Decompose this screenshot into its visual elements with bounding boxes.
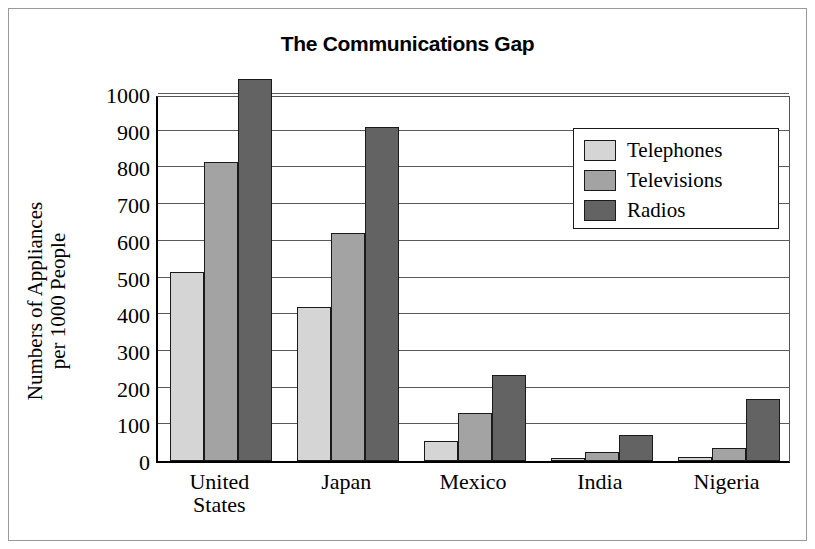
x-axis-tick-label-line: India: [536, 470, 663, 493]
legend-swatch: [584, 170, 616, 191]
y-axis-tick-label: 500: [80, 269, 150, 291]
bar: [678, 457, 712, 461]
legend-label: Televisions: [627, 170, 722, 191]
x-axis-tick-label: India: [536, 470, 663, 493]
x-axis-tick-label-line: States: [156, 493, 283, 516]
chart-legend: TelephonesTelevisionsRadios: [573, 128, 779, 229]
bar: [492, 375, 526, 461]
x-axis-tick-label-line: Mexico: [410, 470, 537, 493]
legend-label: Radios: [627, 200, 685, 221]
y-axis-title-line-1: Numbers of Appliances: [24, 202, 47, 400]
x-axis-tick-label: Nigeria: [663, 470, 790, 493]
legend-item: Radios: [584, 195, 778, 225]
x-axis-tick-label-line: Japan: [283, 470, 410, 493]
y-axis-title-line-2: per 1000 People: [47, 233, 70, 369]
legend-item: Telephones: [584, 135, 778, 165]
legend-swatch: [584, 140, 616, 161]
bar: [585, 452, 619, 461]
x-axis-tick-label: UnitedStates: [156, 470, 283, 516]
chart-figure: The Communications Gap Numbers of Applia…: [0, 0, 815, 549]
bar: [170, 272, 204, 461]
y-axis-tick-labels: 01002003004005006007008009001000: [74, 96, 150, 463]
bar: [551, 458, 585, 461]
y-axis-title: Numbers of Appliances per 1000 People: [21, 151, 73, 451]
y-axis-tick-label: 100: [80, 415, 150, 437]
legend-item: Televisions: [584, 165, 778, 195]
bar: [331, 233, 365, 461]
legend-swatch: [584, 200, 616, 221]
y-axis-tick-label: 300: [80, 342, 150, 364]
bar: [424, 441, 458, 461]
y-axis-tick-label: 400: [80, 305, 150, 327]
x-axis-tick-label: Mexico: [410, 470, 537, 493]
x-axis-tick-label-line: United: [156, 470, 283, 493]
y-axis-tick-label: 700: [80, 195, 150, 217]
bar: [619, 435, 653, 461]
y-axis-tick-label: 0: [80, 452, 150, 474]
bar: [458, 413, 492, 461]
legend-label: Telephones: [627, 140, 722, 161]
chart-title: The Communications Gap: [0, 32, 815, 56]
bar: [712, 448, 746, 461]
bar: [365, 127, 399, 461]
bar: [204, 162, 238, 461]
y-axis-tick-label: 800: [80, 158, 150, 180]
x-axis-tick-label-line: Nigeria: [663, 470, 790, 493]
bar: [746, 399, 780, 461]
y-axis-tick-label: 600: [80, 232, 150, 254]
y-axis-tick-label: 900: [80, 122, 150, 144]
y-axis-tick-label: 1000: [80, 85, 150, 107]
bar: [238, 79, 272, 461]
x-axis-tick-label: Japan: [283, 470, 410, 493]
bar: [297, 307, 331, 461]
y-axis-tick-label: 200: [80, 379, 150, 401]
